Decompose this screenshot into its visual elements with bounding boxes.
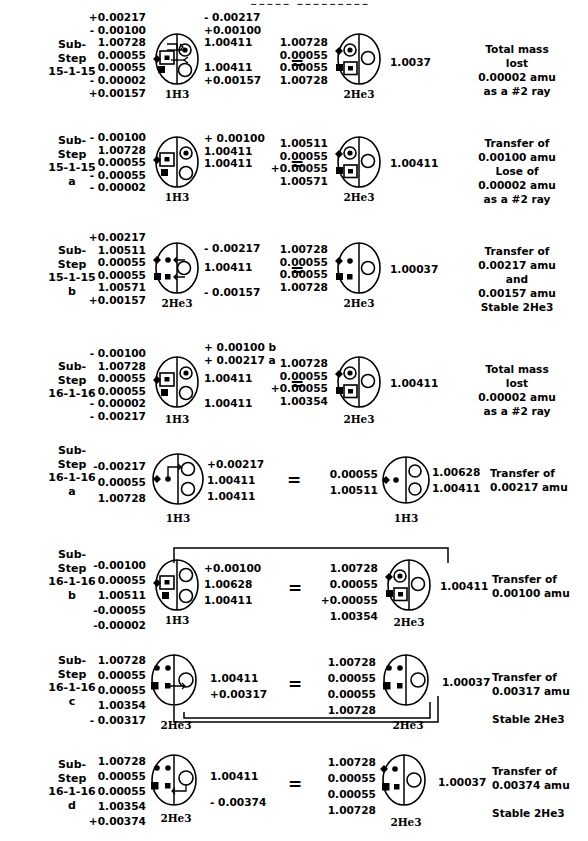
- value-cell: - 0.00217: [58, 410, 146, 423]
- note-line: as a #2 ray: [450, 404, 584, 418]
- value-cell: - 0.00100: [58, 347, 146, 360]
- atom-label: 2He3: [152, 297, 202, 309]
- atom-label: 2He3: [334, 88, 384, 100]
- left-value-stack: - 0.00100 1.00728 0.00055 - 0.00055 - 0.…: [58, 347, 146, 423]
- atom-2he3-arrow-back: [148, 753, 204, 807]
- value-cell: 0.00055: [246, 256, 328, 269]
- note-text: Transfer of 0.00100 amu Lose of 0.00002 …: [450, 136, 584, 206]
- atom-label: 2He3: [380, 816, 432, 828]
- value-cell: 0.00055: [296, 576, 378, 592]
- note-line: Stable 2He3: [450, 300, 584, 314]
- atom-1h3-boxed: [152, 33, 202, 85]
- value-cell: - 0.00217: [204, 11, 284, 24]
- value-cell: 1.00411: [204, 592, 284, 608]
- note-line: as a #2 ray: [450, 192, 584, 206]
- note-text: Transfer of 0.00100 amu: [492, 572, 588, 600]
- value-cell: 1.00728: [246, 281, 328, 294]
- left-value-stack: - 0.00100 1.00728 0.00055 - 0.00055 - 0.…: [58, 131, 146, 194]
- value-cell: -0.00002: [68, 618, 146, 633]
- value-cell: 0.00055: [68, 784, 146, 799]
- value-cell: 1.00728: [294, 754, 376, 770]
- value-cell: 1.00628: [204, 576, 284, 592]
- note-line: Stable 2He3: [492, 712, 588, 726]
- atom-label: 1H3: [152, 512, 204, 524]
- value-cell: 0.00055: [68, 769, 146, 784]
- note-line: Total mass: [450, 362, 584, 376]
- atom-label: 2He3: [384, 616, 434, 628]
- value-cell: 1.00354: [68, 799, 146, 814]
- note-line: 0.00002 amu: [450, 390, 584, 404]
- value-cell: -0.00055: [68, 603, 146, 618]
- substep-row: Sub- Step 16-1-16 d 1.00728 0.00055 0.00…: [0, 750, 588, 841]
- result-value: 1.00037: [438, 776, 486, 789]
- value-cell: -0.00100: [68, 558, 146, 573]
- atom-label: 2He3: [334, 297, 384, 309]
- value-cell: 1.00728: [246, 36, 328, 49]
- value-cell: - 0.00374: [210, 784, 290, 820]
- transfer-bridge-bottom: [148, 678, 448, 722]
- atom-label: 2He3: [334, 413, 384, 425]
- value-cell: 0.00055: [294, 770, 376, 786]
- atom-1h3-open-plain: [382, 455, 430, 505]
- value-cell: 0.00055: [68, 668, 146, 683]
- value-cell: 1.00511: [300, 482, 378, 498]
- value-cell: 1.00354: [296, 608, 378, 624]
- note-line: lost: [450, 56, 584, 70]
- value-cell: - 0.00317: [68, 713, 146, 728]
- atom-label: 1H3: [152, 614, 202, 626]
- value-cell: 1.00511: [68, 588, 146, 603]
- value-cell: 0.00055: [58, 269, 146, 282]
- atom-label: 2He3: [334, 191, 384, 203]
- value-cell: - 0.00100: [58, 131, 146, 144]
- value-cell: 0.00055: [58, 49, 146, 62]
- value-cell: 1.00728: [68, 490, 146, 506]
- note-line: Transfer of: [492, 764, 588, 778]
- value-cell: 0.00055: [300, 466, 378, 482]
- substep-row: Sub- Step 16-1-16 c 1.00728 0.00055 0.00…: [0, 650, 588, 750]
- note-text: Total mass lost 0.00002 amu as a #2 ray: [450, 362, 584, 418]
- atom-2he3-dot: [384, 559, 434, 611]
- value-cell: 1.00728: [58, 36, 146, 49]
- value-cell: 0.00055: [246, 150, 328, 163]
- substep-row: Sub- Step 15-1-15 a - 0.00100 1.00728 0.…: [0, 110, 588, 218]
- substep-row: Sub- Step 16-1-16 a -0.00217 0.00055 1.0…: [0, 440, 588, 538]
- left-value-stack: -0.00100 0.00055 1.00511 -0.00055 -0.000…: [68, 558, 146, 633]
- value-cell: 1.00511: [58, 244, 146, 257]
- value-cell: 1.00728: [58, 144, 146, 157]
- note-text: Transfer of 0.00317 amu Stable 2He3: [492, 670, 588, 726]
- atom-2he3-plain-arrow: [152, 242, 202, 294]
- note-line: Lose of: [450, 164, 584, 178]
- result-value: 1.00411: [390, 157, 438, 170]
- value-cell: 1.00354: [246, 395, 328, 408]
- value-cell: +0.00100: [204, 560, 284, 576]
- value-cell: 1.00411: [207, 488, 287, 504]
- atom-2he3-dot: [334, 356, 384, 408]
- value-cell: - 0.00055: [58, 61, 146, 74]
- atom-label: 1H3: [152, 413, 202, 425]
- value-cell: 1.00728: [296, 560, 378, 576]
- atom-1h3-boxed: [152, 356, 202, 408]
- value-cell: 0.00055: [246, 268, 328, 281]
- value-cell: 1.00571: [246, 175, 328, 188]
- substep-row: Sub- Step 15-1-15 b +0.00217 1.00511 0.0…: [0, 220, 588, 328]
- value-cell: +0.00217: [58, 11, 146, 24]
- right-value-stack: 1.00728 0.00055 0.00055 1.00728: [294, 754, 376, 818]
- left-value-stack: +0.00217 1.00511 0.00055 0.00055 1.00571…: [58, 231, 146, 307]
- left-value-stack: 1.00728 0.00055 0.00055 1.00354 - 0.0031…: [68, 653, 146, 728]
- note-line: 0.00002 amu: [450, 178, 584, 192]
- value-cell: +0.00374: [68, 814, 146, 829]
- right-value-stack: 1.00728 0.00055 0.00055 1.00728: [246, 36, 328, 86]
- value-cell: - 0.00055: [58, 385, 146, 398]
- right-value-stack: 1.00728 0.00055 0.00055 1.00728: [246, 243, 328, 293]
- value-cell: 1.00511: [246, 137, 328, 150]
- value-cell: + 0.00100 b: [204, 341, 294, 354]
- result-value: 1.00037: [442, 676, 490, 689]
- value-cell: - 0.00002: [58, 181, 146, 194]
- atom-label: 1H3: [152, 88, 202, 100]
- value-cell: 1.00728: [246, 243, 328, 256]
- note-text: Transfer of 0.00217 amu: [490, 466, 586, 494]
- result-value: 1.00411: [390, 377, 438, 390]
- note-line: [492, 698, 588, 712]
- left-value-stack: -0.00217 0.00055 1.00728: [68, 458, 146, 506]
- value-cell: 0.00055: [58, 372, 146, 385]
